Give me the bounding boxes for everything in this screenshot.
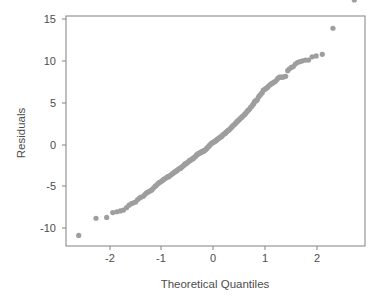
- y-tick-label: -10: [40, 222, 56, 234]
- y-tick-label: 5: [50, 97, 56, 109]
- data-point: [104, 215, 109, 220]
- data-point: [314, 53, 319, 58]
- data-point: [283, 74, 288, 79]
- data-point: [93, 216, 98, 221]
- x-tick-label: 2: [314, 252, 320, 264]
- x-tick-label: 1: [262, 252, 268, 264]
- x-axis-title: Theoretical Quantiles: [161, 278, 270, 290]
- x-tick-label: -1: [156, 252, 166, 264]
- qq-plot-figure: -2 -1 0 1 2 15 10 5 0 -5 -10 Theoretical…: [0, 0, 386, 297]
- data-point: [320, 52, 325, 57]
- data-point: [352, 0, 357, 3]
- y-tick-labels: 15 10 5 0 -5 -10: [40, 13, 56, 234]
- scatter-points: [76, 0, 357, 238]
- y-tick-label: 0: [50, 139, 56, 151]
- x-tick-label: -2: [105, 252, 115, 264]
- y-axis-ticks: [62, 19, 66, 228]
- y-tick-label: 15: [44, 13, 56, 25]
- data-point: [330, 26, 335, 31]
- plot-canvas: -2 -1 0 1 2 15 10 5 0 -5 -10 Theoretical…: [0, 0, 386, 297]
- x-tick-label: 0: [210, 252, 216, 264]
- y-tick-label: 10: [44, 55, 56, 67]
- y-tick-label: -5: [46, 180, 56, 192]
- x-tick-labels: -2 -1 0 1 2: [105, 252, 320, 264]
- y-axis-title: Residuals: [15, 108, 27, 159]
- data-point: [76, 233, 81, 238]
- x-axis-ticks: [110, 246, 317, 250]
